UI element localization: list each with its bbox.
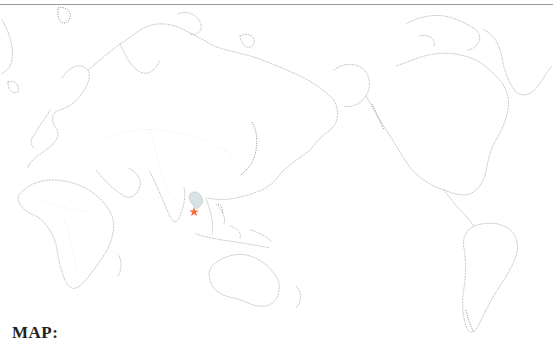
- north-america-outline: [366, 53, 509, 195]
- india-outline: [150, 172, 185, 222]
- alaska-outline: [334, 64, 369, 106]
- east-asia-coast: [208, 172, 282, 200]
- central-america-outline: [444, 190, 474, 226]
- world-map: [0, 0, 553, 354]
- australia-outline: [209, 254, 279, 306]
- thailand-highlight: [189, 192, 202, 209]
- africa-outline: [18, 180, 114, 288]
- indonesia-outline: [196, 234, 270, 248]
- asia-north-coast: [88, 24, 334, 100]
- greenland-outline: [1, 20, 12, 74]
- japan-outline: [240, 122, 257, 176]
- south-america-outline: [463, 223, 518, 332]
- map-label: MAP:: [12, 323, 58, 343]
- europe-outline: [28, 66, 89, 168]
- greenland-right-outline: [484, 30, 552, 95]
